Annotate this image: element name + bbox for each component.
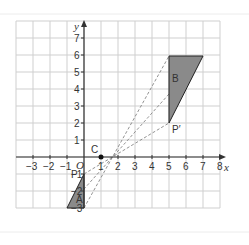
y-tick-label: 3 bbox=[74, 101, 80, 112]
x-tick-label: 3 bbox=[132, 161, 138, 172]
shape-b-label: B bbox=[172, 73, 179, 84]
y-tick-label: 6 bbox=[74, 50, 80, 61]
x-tick-label: 6 bbox=[183, 161, 189, 172]
grid bbox=[16, 21, 220, 208]
centre-point bbox=[99, 155, 104, 160]
y-axis-label: y bbox=[73, 20, 79, 32]
x-tick-label: 2 bbox=[115, 161, 121, 172]
y-tick-label: 4 bbox=[74, 84, 80, 95]
axes bbox=[16, 24, 222, 208]
y-tick-label: 7 bbox=[74, 33, 80, 44]
y-tick-label: 5 bbox=[74, 67, 80, 78]
x-axis-label: x bbox=[223, 161, 229, 173]
x-tick-label: 4 bbox=[149, 161, 155, 172]
shape-a-label: A bbox=[76, 194, 83, 205]
x-tick-label: 1 bbox=[98, 161, 104, 172]
y-tick-label: 2 bbox=[74, 118, 80, 129]
x-tick-label: 5 bbox=[166, 161, 172, 172]
enlargement-diagram: −3−2−1123456781234567−1−2−3 C P P′ A B x… bbox=[0, 0, 249, 245]
x-tick-label: 8 bbox=[217, 161, 223, 172]
x-tick-label: 7 bbox=[200, 161, 206, 172]
x-tick-label: −3 bbox=[26, 161, 38, 172]
centre-label: C bbox=[91, 144, 98, 155]
point-p-prime-label: P′ bbox=[172, 124, 181, 135]
x-tick-label: −2 bbox=[43, 161, 55, 172]
y-tick-label: 1 bbox=[74, 135, 80, 146]
origin-label: O bbox=[76, 159, 84, 171]
